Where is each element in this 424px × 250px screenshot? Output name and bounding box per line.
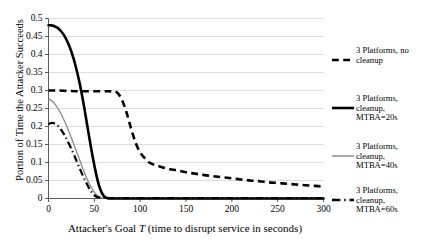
legend-label: 3 Platforms, cleanup, MTBA=60s [356, 186, 424, 215]
y-tick-label: 0.05 [17, 175, 43, 185]
legend-line-icon [332, 98, 354, 106]
x-axis-title-suffix: (time to disrupt service in seconds) [145, 222, 302, 234]
legend-line-icon [332, 190, 354, 198]
chart-figure: Portion of Time the Attacker Succeeds At… [0, 0, 424, 250]
legend-label: 3 Platforms, no cleanup [356, 46, 424, 65]
y-tick-label: 0.1 [17, 157, 43, 167]
legend-line-icon [332, 50, 354, 58]
y-tick-label: 0.3 [17, 85, 43, 95]
legend-label: 3 Platforms, cleanup, MTBA=20s [356, 94, 424, 123]
y-tick-label: 0.35 [17, 67, 43, 77]
y-tick-label: 0.45 [17, 31, 43, 41]
legend-label: 3 Platforms, cleanup, MTBA=40s [356, 142, 424, 171]
y-tick-label: 0.5 [17, 13, 43, 23]
y-tick-label: 0.4 [17, 49, 43, 59]
legend-line-icon [332, 146, 354, 154]
x-tick-label: 50 [79, 204, 109, 214]
x-axis-title: Attacker's Goal T (time to disrupt servi… [40, 222, 330, 234]
x-tick-label: 250 [263, 204, 293, 214]
y-tick-label: 0.15 [17, 139, 43, 149]
x-tick-label: 0 [34, 204, 64, 214]
y-tick-label: 0.2 [17, 121, 43, 131]
y-tick-label: 0.25 [17, 103, 43, 113]
x-axis-title-prefix: Attacker's Goal [68, 222, 139, 234]
x-tick-label: 100 [125, 204, 155, 214]
x-tick-label: 200 [217, 204, 247, 214]
chart-legend: 3 Platforms, no cleanup3 Platforms, clea… [332, 18, 424, 218]
x-tick-label: 150 [171, 204, 201, 214]
y-tick-label: 0 [17, 193, 43, 203]
